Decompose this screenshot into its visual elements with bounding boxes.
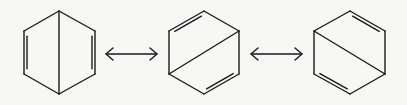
- resonance-diagram: [0, 0, 407, 105]
